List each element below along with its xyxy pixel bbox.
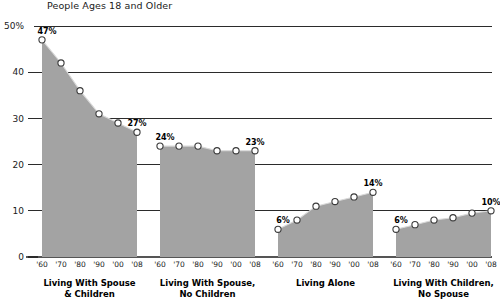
x-tick-label: '60 [272,260,284,269]
area-fill [160,146,255,257]
value-annotation: 6% [394,216,408,225]
data-point-marker [294,217,300,223]
x-tick-label: '90 [93,260,105,269]
x-tick-label: '90 [329,260,341,269]
x-tick-label: '80 [74,260,86,269]
data-point-marker [157,143,163,149]
y-tick-label: 40 [13,67,25,77]
data-point-marker [252,148,258,154]
x-tick-label: '08 [367,260,379,269]
x-tick-label: '60 [36,260,48,269]
x-tick-label: '90 [211,260,223,269]
y-tick-label: 0 [18,252,24,262]
data-point-marker [275,226,281,232]
y-tick-label: 30 [13,114,25,124]
x-tick-label: '80 [428,260,440,269]
data-point-marker [450,215,456,221]
y-axis-ticks: 50%403020100 [4,21,38,262]
x-tick-label: '60 [154,260,166,269]
data-point-marker [488,208,494,214]
x-tick-label: '70 [291,260,303,269]
x-tick-label: '08 [485,260,497,269]
x-axis-ticks: '60'70'80'90'00'08'60'70'80'90'00'08'60'… [36,260,497,269]
x-tick-label: '70 [409,260,421,269]
category-label: Living With Children, [393,278,494,288]
data-point-marker [58,60,64,66]
area-fill [278,192,373,257]
series-panel [393,208,494,257]
x-tick-label: '00 [230,260,242,269]
x-tick-label: '80 [310,260,322,269]
area-chart-plot: 50%403020100 '60'70'80'90'00'08'60'70'80… [0,0,500,306]
series-panel [275,189,376,257]
value-annotation: 14% [363,179,382,188]
value-annotation: 23% [245,138,264,147]
x-tick-label: '70 [173,260,185,269]
data-point-marker [332,198,338,204]
x-tick-label: '08 [249,260,261,269]
data-point-marker [176,143,182,149]
y-tick-label: 50% [4,21,24,31]
series-panel [157,143,258,257]
series-panels [39,37,494,257]
value-annotation: 6% [276,216,290,225]
x-tick-label: '00 [466,260,478,269]
data-point-marker [214,148,220,154]
category-label: Living With Spouse, [160,278,255,288]
category-labels: Living With Spouse& ChildrenLiving With … [43,278,493,299]
value-annotation: 10% [481,198,500,207]
x-tick-label: '00 [112,260,124,269]
category-label: Living Alone [296,278,355,288]
chart-container: People Ages 18 and Older 50%403020100 '6… [0,0,500,306]
x-tick-label: '60 [390,260,402,269]
data-point-marker [313,203,319,209]
category-label: Living With Spouse [43,278,135,288]
data-point-marker [393,226,399,232]
data-point-marker [195,143,201,149]
x-tick-label: '08 [131,260,143,269]
data-point-marker [469,210,475,216]
y-tick-label: 20 [13,160,25,170]
x-tick-label: '00 [348,260,360,269]
data-point-marker [134,129,140,135]
data-point-marker [77,88,83,94]
category-label: No Spouse [418,289,469,299]
data-point-marker [370,189,376,195]
series-panel [39,37,140,257]
area-fill [396,211,491,257]
value-annotation: 27% [127,119,146,128]
data-point-marker [96,111,102,117]
x-tick-label: '70 [55,260,67,269]
x-tick-label: '90 [447,260,459,269]
value-annotation: 24% [155,133,174,142]
category-label: & Children [64,289,115,299]
data-point-marker [351,194,357,200]
category-label: No Children [179,289,235,299]
y-tick-label: 10 [13,206,25,216]
data-point-marker [115,120,121,126]
data-point-marker [233,148,239,154]
data-point-marker [412,222,418,228]
data-point-marker [39,37,45,43]
value-annotation: 47% [37,27,56,36]
data-point-marker [431,217,437,223]
x-tick-label: '80 [192,260,204,269]
